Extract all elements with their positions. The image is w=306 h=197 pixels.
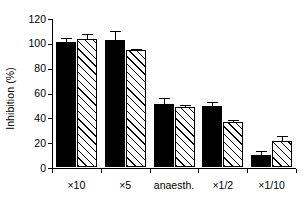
x-axis-category-label: ×1/10 (258, 179, 285, 191)
y-axis-tick-mark (48, 143, 52, 144)
y-axis-tick-label: 100 (28, 37, 46, 49)
error-bar-cap (228, 120, 239, 121)
x-axis-category-label: ×10 (67, 179, 85, 191)
y-axis-tick-label: 40 (34, 112, 46, 124)
y-axis-tick-mark (48, 94, 52, 95)
bar (202, 106, 222, 167)
error-bar-cap (82, 34, 93, 35)
y-axis-tick-label: 20 (34, 137, 46, 149)
y-axis-tick-mark (48, 44, 52, 45)
bar (56, 42, 76, 167)
error-bar-cap (277, 136, 288, 137)
plot-area: 020406080100120 ×10×5anaesth.×1/2×1/10 (52, 19, 296, 168)
error-bar-cap (207, 102, 218, 103)
y-axis-tick-mark (48, 19, 52, 20)
bar (175, 107, 195, 167)
bar (77, 39, 97, 167)
y-axis-title: Inhibition (%) (0, 0, 20, 197)
x-axis-tick-mark (198, 169, 199, 173)
x-axis-category-label: ×5 (119, 179, 131, 191)
y-axis-tick-label: 80 (34, 62, 46, 74)
error-bar-cap (256, 151, 267, 152)
x-axis-line (52, 168, 296, 169)
x-axis-tick-mark (296, 169, 297, 173)
x-axis-category-label: anaesth. (154, 179, 194, 191)
error-bar-cap (110, 31, 121, 32)
y-axis-tick-label: 60 (34, 87, 46, 99)
error-bar-cap (180, 105, 191, 106)
x-axis-tick-mark (150, 169, 151, 173)
x-axis-tick-mark (101, 169, 102, 173)
bar (154, 104, 174, 167)
bar (126, 50, 146, 167)
x-axis-tick-mark (52, 169, 53, 173)
bar (105, 40, 125, 167)
bar (251, 155, 271, 167)
y-axis-line (52, 19, 53, 169)
y-axis-tick-label: 0 (40, 162, 46, 174)
bar-chart-figure: Inhibition (%) 020406080100120 ×10×5anae… (0, 0, 306, 197)
error-bar-stem (115, 31, 116, 41)
y-axis-tick-mark (48, 118, 52, 119)
x-axis-tick-mark (247, 169, 248, 173)
bar (272, 141, 292, 167)
y-axis-tick-mark (48, 69, 52, 70)
error-bar-cap (159, 98, 170, 99)
error-bar-cap (61, 38, 72, 39)
y-axis-tick-label: 120 (28, 13, 46, 25)
x-axis-category-label: ×1/2 (212, 179, 233, 191)
bar (223, 122, 243, 167)
error-bar-cap (131, 49, 142, 50)
